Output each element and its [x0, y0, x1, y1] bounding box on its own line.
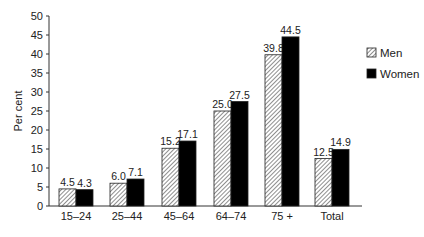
- bar-men: [162, 148, 179, 206]
- bar-women: [76, 190, 93, 206]
- x-tick-label: 15–24: [61, 210, 92, 222]
- data-label: 7.1: [128, 166, 143, 178]
- data-label: 17.1: [177, 128, 198, 140]
- x-tick-label: 75 +: [271, 210, 293, 222]
- x-tick-label: 25–44: [112, 210, 143, 222]
- bar-women: [282, 37, 299, 206]
- x-tick-label: Total: [320, 210, 343, 222]
- legend-label-men: Men: [380, 47, 402, 59]
- bar-women: [231, 102, 248, 207]
- legend-swatch-women: [367, 69, 376, 78]
- y-tick-label: 20: [31, 124, 43, 136]
- y-axis-label: Per cent: [12, 91, 24, 132]
- bar-women: [179, 141, 196, 206]
- y-tick-label: 0: [37, 200, 43, 212]
- data-label: 4.5: [60, 176, 75, 188]
- bars: 4.54.36.07.115.217.125.027.539.844.512.5…: [59, 24, 351, 206]
- bar-men: [110, 183, 127, 206]
- bar-women: [332, 149, 349, 206]
- y-tick-label: 50: [31, 10, 43, 22]
- data-label: 27.5: [229, 89, 250, 101]
- y-tick-label: 30: [31, 86, 43, 98]
- y-tick-label: 10: [31, 162, 43, 174]
- bar-chart: 05101520253035404550Per cent15–2425–4445…: [0, 0, 424, 237]
- y-tick-label: 40: [31, 48, 43, 60]
- bar-men: [315, 159, 332, 207]
- bar-women: [127, 179, 144, 206]
- x-tick-label: 64–74: [216, 210, 247, 222]
- data-label: 39.8: [263, 42, 284, 54]
- data-label: 44.5: [280, 24, 301, 36]
- y-tick-label: 5: [37, 181, 43, 193]
- bar-men: [59, 189, 76, 206]
- data-label: 4.3: [77, 177, 92, 189]
- y-tick-label: 45: [31, 29, 43, 41]
- y-tick-label: 35: [31, 67, 43, 79]
- legend: MenWomen: [367, 47, 419, 80]
- legend-swatch-men: [367, 48, 376, 57]
- bar-men: [214, 111, 231, 206]
- x-tick-label: 45–64: [164, 210, 195, 222]
- legend-label-women: Women: [380, 68, 419, 80]
- y-tick-label: 15: [31, 143, 43, 155]
- bar-men: [265, 55, 282, 206]
- data-label: 14.9: [330, 136, 351, 148]
- y-tick-label: 25: [31, 105, 43, 117]
- data-label: 6.0: [111, 170, 126, 182]
